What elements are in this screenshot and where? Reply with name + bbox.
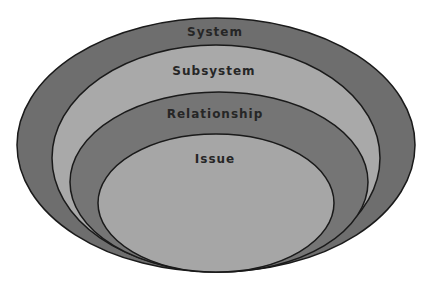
- issue-label: Issue: [195, 152, 235, 166]
- nested-ellipse-diagram: System Subsystem Relationship Issue: [0, 0, 431, 282]
- relationship-label: Relationship: [167, 107, 264, 121]
- subsystem-label: Subsystem: [172, 64, 255, 78]
- system-label: System: [187, 25, 243, 39]
